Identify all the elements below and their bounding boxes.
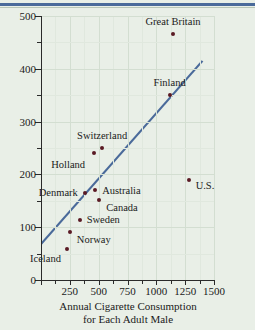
x-axis-title: Annual Cigarette Consumption for Each Ad… xyxy=(41,300,215,326)
y-axis-tick-label: 100 xyxy=(20,222,37,233)
x-axis-tick-label: 1000 xyxy=(145,286,167,297)
data-point xyxy=(65,247,69,251)
gridline-horizontal xyxy=(41,227,214,228)
data-point xyxy=(187,178,191,182)
x-axis-tick-label: 1250 xyxy=(174,286,196,297)
y-axis-tick xyxy=(37,148,41,149)
data-point xyxy=(100,146,104,150)
gridline-horizontal xyxy=(41,174,214,175)
data-point xyxy=(68,230,72,234)
gridline-horizontal xyxy=(41,95,214,96)
data-point xyxy=(168,93,172,97)
x-axis-title-line1: Annual Cigarette Consumption xyxy=(41,300,215,313)
gridline-horizontal xyxy=(41,148,214,149)
data-point-label: Sweden xyxy=(87,215,120,226)
y-axis-tick xyxy=(37,201,41,202)
data-point-label: Australia xyxy=(102,186,141,197)
data-point-label: Denmark xyxy=(39,188,78,199)
y-axis-line: 0100200300400500 xyxy=(41,16,42,280)
data-point-label: Norway xyxy=(77,235,111,246)
x-axis-tick xyxy=(113,280,114,284)
x-axis-tick xyxy=(200,280,201,284)
x-axis-tick xyxy=(84,280,85,284)
data-point xyxy=(97,198,101,202)
x-axis-tick xyxy=(171,280,172,284)
data-point xyxy=(83,191,87,195)
x-axis-tick xyxy=(41,280,42,285)
data-point-label: Holland xyxy=(51,160,85,171)
data-point xyxy=(92,151,96,155)
y-axis-tick xyxy=(37,95,41,96)
data-point-label: U.S. xyxy=(196,180,215,191)
gridline-horizontal xyxy=(41,254,214,255)
top-divider-rule xyxy=(0,3,255,6)
data-point-label: Finland xyxy=(154,78,186,89)
y-axis-tick-label: 200 xyxy=(20,169,37,180)
x-axis-tick xyxy=(55,280,56,284)
x-axis-tick-label: 250 xyxy=(62,286,79,297)
x-axis-tick-label: 1500 xyxy=(203,286,225,297)
data-point-label: Canada xyxy=(106,202,138,213)
gridline-horizontal xyxy=(41,69,214,70)
gridline-vertical xyxy=(214,16,215,280)
y-axis-tick-label: 0 xyxy=(31,275,37,286)
x-axis-title-line2: for Each Adult Male xyxy=(41,313,215,326)
y-axis-tick xyxy=(37,42,41,43)
scatter-plot-area: Great BritainFinlandU.S.SwitzerlandHolla… xyxy=(41,16,214,280)
data-point xyxy=(171,32,175,36)
y-axis-tick xyxy=(37,254,41,255)
x-axis-line: 250500750100012501500 xyxy=(41,280,215,281)
x-axis-tick-label: 500 xyxy=(90,286,107,297)
data-point xyxy=(93,188,97,192)
x-axis-tick-label: 750 xyxy=(119,286,136,297)
top-divider-hairline xyxy=(0,7,255,8)
data-point-label: Iceland xyxy=(30,254,61,265)
data-point xyxy=(78,218,82,222)
y-axis-tick-label: 500 xyxy=(20,11,37,22)
y-axis-tick-label: 300 xyxy=(20,116,37,127)
gridline-horizontal xyxy=(41,42,214,43)
gridline-horizontal xyxy=(41,122,214,123)
y-axis-tick-label: 400 xyxy=(20,63,37,74)
data-point-label: Switzerland xyxy=(77,131,127,142)
data-point-label: Great Britain xyxy=(145,17,200,28)
x-axis-tick xyxy=(142,280,143,284)
